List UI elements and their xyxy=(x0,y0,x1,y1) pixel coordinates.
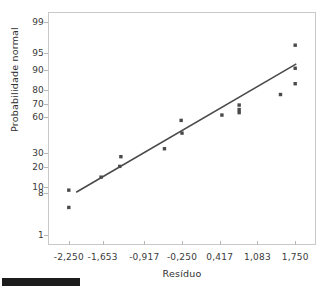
x-tick-label: -1,653 xyxy=(87,252,117,262)
y-tick-label: 80 xyxy=(32,85,44,95)
bottom-black-bar xyxy=(2,278,80,286)
x-tick-label: 1,750 xyxy=(282,252,309,262)
y-tick-label: 70 xyxy=(32,99,44,109)
data-point xyxy=(237,111,240,114)
x-tick-mark xyxy=(182,241,183,245)
x-tick-mark xyxy=(103,241,104,245)
y-tick-label: 60 xyxy=(32,112,44,122)
data-point xyxy=(293,43,296,46)
x-tick-label: -0,250 xyxy=(167,252,197,262)
data-point xyxy=(67,206,70,209)
data-point xyxy=(67,188,70,191)
reference-line xyxy=(76,64,296,192)
x-tick-label: 1,083 xyxy=(244,252,271,262)
data-point xyxy=(220,113,223,116)
plot-area xyxy=(48,12,316,245)
y-tick-label: 90 xyxy=(32,65,44,75)
x-tick-mark xyxy=(295,241,296,245)
y-axis-title: Probabilidade normal xyxy=(9,20,20,140)
data-point xyxy=(279,93,282,96)
data-point xyxy=(237,108,240,111)
normal-probability-plot-figure: 99959080706030201081 -2,250-1,653-0,917-… xyxy=(0,0,331,292)
y-tick-label: 20 xyxy=(32,162,44,172)
x-tick-label: 0,417 xyxy=(206,252,233,262)
x-tick-label: -2,250 xyxy=(54,252,84,262)
data-point xyxy=(293,82,296,85)
data-point xyxy=(293,67,296,70)
data-point xyxy=(237,103,240,106)
y-tick-label: 95 xyxy=(32,48,44,58)
y-tick-label: 30 xyxy=(32,148,44,158)
y-tick-label: 99 xyxy=(32,17,44,27)
data-point xyxy=(163,147,166,150)
data-point xyxy=(179,119,182,122)
data-point xyxy=(119,155,122,158)
x-tick-label: -0,917 xyxy=(129,252,159,262)
x-axis-title: Resíduo xyxy=(48,268,316,279)
plot-svg xyxy=(49,13,315,244)
x-tick-mark xyxy=(69,241,70,245)
x-tick-mark xyxy=(257,241,258,245)
y-tick-label: 8 xyxy=(38,188,44,198)
y-tick-label: 1 xyxy=(38,230,44,240)
x-tick-mark xyxy=(144,241,145,245)
x-tick-mark xyxy=(220,241,221,245)
